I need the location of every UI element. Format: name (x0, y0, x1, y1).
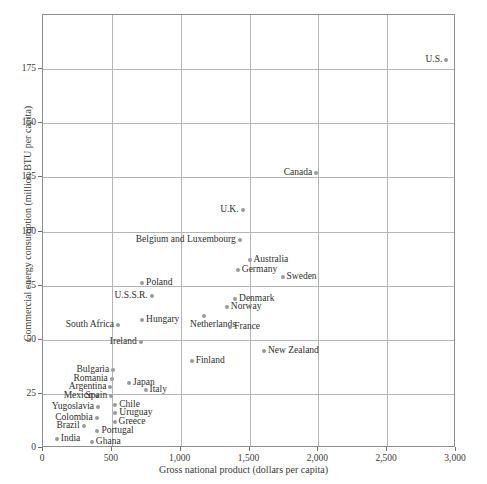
data-point (225, 305, 229, 309)
x-axis-tick (317, 447, 318, 451)
gridline-horizontal (43, 232, 454, 233)
data-point (110, 377, 114, 381)
data-point (150, 294, 154, 298)
data-point-label: Finland (196, 357, 225, 367)
data-point (140, 281, 144, 285)
x-axis-label: Gross national product (dollars per capi… (0, 464, 487, 475)
x-axis-tick (249, 447, 250, 451)
data-point-label: Ireland (110, 337, 137, 347)
data-point-label: Norway (231, 303, 262, 313)
data-point-label: New Zealand (268, 346, 319, 356)
data-point-label: U.S.S.R. (114, 292, 147, 302)
gridline-vertical (318, 15, 319, 446)
data-point (113, 403, 117, 407)
x-axis-tick (42, 447, 43, 451)
y-axis-tick (38, 68, 42, 69)
data-point-label: Australia (254, 255, 289, 265)
x-axis-tick-label: 1,500 (238, 453, 259, 463)
data-point-label: Sweden (287, 272, 317, 282)
y-axis-tick-label: 0 (6, 442, 36, 452)
data-point (248, 258, 252, 262)
data-point (95, 429, 99, 433)
data-point-label: Poland (146, 279, 172, 289)
data-point (262, 349, 266, 353)
data-point (116, 323, 120, 327)
gridline-vertical (250, 15, 251, 446)
data-point (55, 437, 59, 441)
x-axis-tick-label: 2,000 (307, 453, 328, 463)
gridline-horizontal (43, 340, 454, 341)
data-point-label: Yugoslavia (52, 402, 94, 412)
x-axis-tick (180, 447, 181, 451)
data-point (202, 314, 206, 318)
y-axis-tick (38, 447, 42, 448)
y-axis-tick (38, 122, 42, 123)
data-point (228, 325, 232, 329)
data-point (241, 208, 245, 212)
data-point-label: U.S. (425, 56, 442, 66)
data-point (127, 381, 131, 385)
data-point-label: Germany (242, 266, 277, 276)
y-axis-tick (38, 285, 42, 286)
x-axis-tick-label: 2,500 (375, 453, 396, 463)
y-axis-tick-label: 175 (6, 63, 36, 73)
gridline-horizontal (43, 123, 454, 124)
gridline-vertical (387, 15, 388, 446)
data-point (113, 420, 117, 424)
y-axis-tick (38, 176, 42, 177)
data-point-label: Hungary (146, 316, 179, 326)
scatter-chart: U.S.CanadaU.K.Belgium and LuxembourgAust… (0, 0, 487, 484)
y-axis-tick (38, 393, 42, 394)
x-axis-tick-label: 3,000 (444, 453, 465, 463)
x-axis-tick-label: 1,000 (169, 453, 190, 463)
data-point-label: Italy (150, 385, 167, 395)
data-point-label: France (234, 322, 260, 332)
data-point (108, 385, 112, 389)
data-point-label: Canada (284, 168, 313, 178)
data-point-label: Spain (86, 391, 108, 401)
data-point (144, 388, 148, 392)
data-point (90, 440, 94, 444)
data-point-label: South Africa (66, 320, 114, 330)
data-point (140, 318, 144, 322)
data-point (281, 275, 285, 279)
data-point-label: India (61, 435, 81, 445)
x-axis-tick-label: 500 (104, 453, 118, 463)
data-point-label: Portugal (101, 426, 133, 436)
data-point-label: U.K. (220, 205, 238, 215)
data-point (238, 238, 242, 242)
x-axis-tick (455, 447, 456, 451)
data-point (109, 394, 113, 398)
gridline-horizontal (43, 286, 454, 287)
gridline-vertical (181, 15, 182, 446)
gridline-vertical (112, 15, 113, 446)
y-axis-label: Commercial energy consumption (million B… (22, 104, 33, 344)
data-point (233, 297, 237, 301)
data-point (236, 268, 240, 272)
y-axis-tick-label: 25 (6, 388, 36, 398)
x-axis-tick (386, 447, 387, 451)
x-axis-tick (111, 447, 112, 451)
data-point (111, 368, 115, 372)
gridline-horizontal (43, 177, 454, 178)
y-axis-tick (38, 231, 42, 232)
data-point (190, 359, 194, 363)
data-point (314, 171, 318, 175)
data-point (113, 411, 117, 415)
plot-area: U.S.CanadaU.K.Belgium and LuxembourgAust… (42, 14, 455, 447)
x-axis-tick-label: 0 (40, 453, 45, 463)
y-axis-tick (38, 339, 42, 340)
data-point (444, 58, 448, 62)
data-point-label: Brazil (56, 422, 79, 432)
data-point (96, 405, 100, 409)
data-point-label: Ghana (96, 437, 121, 447)
gridline-horizontal (43, 69, 454, 70)
data-point (82, 424, 86, 428)
data-point-label: Belgium and Luxembourg (136, 235, 236, 245)
data-point (139, 340, 143, 344)
data-point (95, 416, 99, 420)
